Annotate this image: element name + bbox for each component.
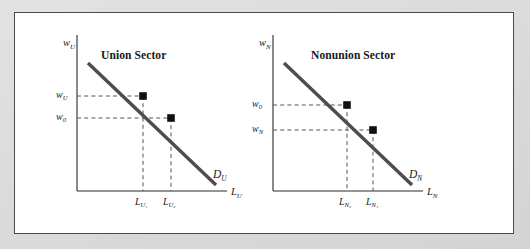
union-y-axis-label-text: w <box>63 37 70 48</box>
panel-union-sector: Union Sector wU <box>15 13 265 235</box>
nonunion-x-tick-labor-nonunion: LN₁ <box>366 196 378 207</box>
nonunion-y-tick-wage-nonunion-text: w <box>252 123 259 134</box>
nonunion-y-tick-wage-competitive-sub: 0 <box>259 103 262 110</box>
nonunion-x-tick-labor-nonunion-text: L <box>366 196 372 207</box>
nonunion-y-tick-wage-competitive-text: w <box>252 98 259 109</box>
nonunion-x-tick-labor-competitive: LN₀ <box>339 196 351 207</box>
union-y-axis-label-sub: U <box>70 43 75 51</box>
nonunion-x-tick-labor-competitive-sub: N₀ <box>345 201 352 208</box>
nonunion-wage-point-marker <box>369 126 377 134</box>
nonunion-x-tick-labor-nonunion-sub: N₁ <box>372 201 379 208</box>
union-y-tick-wage-competitive-text: w <box>56 111 63 122</box>
union-x-tick-labor-union: LU₁ <box>135 196 148 207</box>
panel-nonunion-sector: Nonunion Sector wN LN <box>237 13 487 235</box>
figure-frame: Union Sector wU <box>14 12 514 234</box>
nonunion-y-axis-label-sub: N <box>266 43 271 51</box>
nonunion-y-axis-label: wN <box>259 37 271 48</box>
union-y-axis-label: wU <box>63 37 75 48</box>
nonunion-y-axis-label-text: w <box>259 37 266 48</box>
nonunion-plot-svg <box>237 13 487 235</box>
union-x-axis-label-text: L <box>231 186 237 197</box>
union-x-tick-labor-union-text: L <box>135 196 141 207</box>
union-x-tick-labor-competitive: LU₀ <box>163 196 176 207</box>
union-demand-curve-label: DU <box>213 168 227 180</box>
union-wage-point-marker <box>139 92 147 100</box>
union-y-tick-wage-union: wU <box>56 89 67 100</box>
union-x-tick-labor-competitive-sub: U₀ <box>169 201 176 208</box>
union-demand-curve-label-sub: U <box>221 174 226 183</box>
union-y-tick-wage-union-sub: U <box>63 94 68 101</box>
nonunion-demand-curve-label: DN <box>409 168 422 180</box>
union-y-tick-wage-union-text: w <box>56 89 63 100</box>
nonunion-y-tick-wage-nonunion-sub: N <box>259 128 263 135</box>
figure-root: Union Sector wU <box>0 0 530 249</box>
nonunion-y-tick-wage-nonunion: wN <box>252 123 263 134</box>
nonunion-x-axis-label: LN <box>427 186 438 197</box>
nonunion-demand-curve-label-sub: N <box>417 174 422 183</box>
nonunion-competitive-point-marker <box>343 101 351 109</box>
nonunion-x-tick-labor-competitive-text: L <box>339 196 345 207</box>
union-x-tick-labor-competitive-text: L <box>163 196 169 207</box>
nonunion-x-axis-label-text: L <box>427 186 433 197</box>
union-x-tick-labor-union-sub: U₁ <box>141 201 148 208</box>
union-competitive-point-marker <box>167 114 175 122</box>
nonunion-y-tick-wage-competitive: w0 <box>252 98 262 109</box>
union-y-tick-wage-competitive: w0 <box>56 111 66 122</box>
union-demand-curve <box>88 63 216 185</box>
nonunion-x-axis-label-sub: N <box>433 192 438 200</box>
nonunion-demand-curve <box>284 63 412 185</box>
union-y-tick-wage-competitive-sub: 0 <box>63 116 66 123</box>
